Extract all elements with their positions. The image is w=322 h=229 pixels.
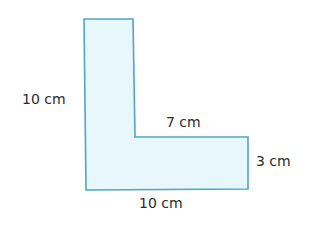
left-height-label: 10 cm: [22, 91, 66, 107]
bottom-width-label: 10 cm: [139, 195, 183, 211]
l-shape: [84, 19, 248, 190]
right-height-label: 3 cm: [256, 153, 291, 169]
inner-top-label: 7 cm: [166, 114, 201, 130]
